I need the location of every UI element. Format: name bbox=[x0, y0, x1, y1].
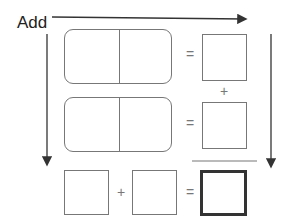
sum-answer-box[interactable] bbox=[200, 170, 247, 216]
domino-1 bbox=[64, 29, 172, 84]
domino-1-divider bbox=[119, 30, 120, 83]
bottom-addend-a-box[interactable] bbox=[64, 170, 109, 215]
equals-sign-row-2: = bbox=[183, 116, 197, 130]
result-box-1[interactable] bbox=[202, 34, 247, 81]
equals-sign-row-1: = bbox=[183, 47, 197, 61]
domino-2 bbox=[64, 97, 172, 152]
equals-sign-bottom: = bbox=[183, 185, 197, 199]
plus-sign-bottom: + bbox=[114, 185, 128, 199]
result-box-2[interactable] bbox=[202, 102, 247, 149]
bottom-addend-b-box[interactable] bbox=[132, 170, 177, 215]
plus-sign-results: + bbox=[217, 84, 231, 98]
top-right-arrow bbox=[52, 17, 245, 19]
domino-2-divider bbox=[119, 98, 120, 151]
